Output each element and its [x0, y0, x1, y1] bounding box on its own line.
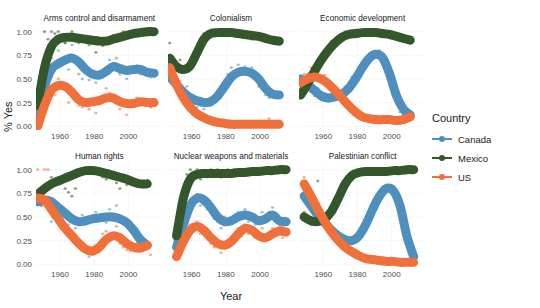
x-tick-label: 1960	[314, 270, 332, 279]
facet-panel: Colonialism196019802000	[168, 12, 295, 146]
y-tick-label: 1.00	[16, 165, 32, 174]
y-tick-label: 0.50	[16, 74, 32, 83]
plot-area: 0.000.250.500.751.00196019802000	[36, 26, 163, 130]
x-tick-label: 1960	[314, 132, 332, 141]
smooth-line-us	[38, 85, 154, 126]
facet-panel: Arms control and disarmament0.000.250.50…	[36, 12, 163, 146]
facet-panel: Nuclear weapons and materials19601980200…	[168, 150, 295, 284]
y-tick-label: 0.00	[16, 260, 32, 269]
x-axis-title: Year	[36, 290, 426, 302]
x-tick-label: 1980	[349, 132, 367, 141]
smooth-line-mexico	[169, 33, 279, 70]
smooth-line-mexico	[38, 170, 148, 194]
plot-area: 196019802000	[299, 26, 426, 130]
legend-label-mexico: Mexico	[458, 153, 488, 164]
y-tick-label: 1.00	[16, 27, 32, 36]
x-tick-label: 2000	[251, 132, 269, 141]
y-tick-label: 0.75	[16, 51, 32, 60]
facet-title: Colonialism	[168, 12, 295, 26]
legend-item-us[interactable]: US	[432, 169, 536, 185]
y-tick-label: 0.50	[16, 212, 32, 221]
facet-title: Nuclear weapons and materials	[168, 150, 295, 164]
legend-item-mexico[interactable]: Mexico	[432, 150, 536, 166]
legend-label-canada: Canada	[458, 134, 491, 145]
x-tick-label: 1980	[85, 132, 103, 141]
x-tick-label: 2000	[120, 270, 138, 279]
facet-panel: Human rights0.000.250.500.751.0019601980…	[36, 150, 163, 284]
x-tick-label: 2000	[383, 270, 401, 279]
legend-item-canada[interactable]: Canada	[432, 131, 536, 147]
x-tick-label: 1980	[217, 270, 235, 279]
y-tick-label: 0.00	[16, 122, 32, 131]
facet-title: Palestinian conflict	[299, 150, 426, 164]
legend-title: Country	[432, 112, 536, 124]
plot-area: 0.000.250.500.751.00196019802000	[36, 164, 163, 268]
legend-key-mexico-icon	[432, 151, 452, 165]
x-tick-label: 1980	[349, 270, 367, 279]
y-tick-label: 0.25	[16, 236, 32, 245]
y-axis-title: % Yes	[2, 101, 14, 132]
x-tick-label: 2000	[120, 132, 138, 141]
plot-area: 196019802000	[168, 164, 295, 268]
legend-key-us-icon	[432, 170, 452, 184]
x-tick-label: 1960	[183, 270, 201, 279]
x-tick-label: 1960	[51, 270, 69, 279]
smooth-line-us	[169, 68, 279, 125]
x-tick-label: 1980	[217, 132, 235, 141]
legend-key-canada-icon	[432, 132, 452, 146]
x-tick-label: 1960	[51, 132, 69, 141]
facet-grid: Arms control and disarmament0.000.250.50…	[36, 12, 426, 284]
plot-area: 196019802000	[168, 26, 295, 130]
x-tick-label: 2000	[251, 270, 269, 279]
facet-title: Economic development	[299, 12, 426, 26]
legend-label-us: US	[458, 172, 471, 183]
y-tick-label: 0.25	[16, 98, 32, 107]
facet-title: Human rights	[36, 150, 163, 164]
chart-root: % Yes Arms control and disarmament0.000.…	[0, 0, 540, 308]
y-tick-label: 0.75	[16, 189, 32, 198]
x-tick-label: 2000	[383, 132, 401, 141]
legend: Country Canada Mexico US	[432, 112, 536, 188]
smooth-line-us	[176, 226, 286, 256]
facet-title: Arms control and disarmament	[36, 12, 163, 26]
x-tick-label: 1960	[183, 132, 201, 141]
x-tick-label: 1980	[85, 270, 103, 279]
facet-panel: Palestinian conflict196019802000	[299, 150, 426, 284]
facet-panel: Economic development196019802000	[299, 12, 426, 146]
plot-area: 196019802000	[299, 164, 426, 268]
